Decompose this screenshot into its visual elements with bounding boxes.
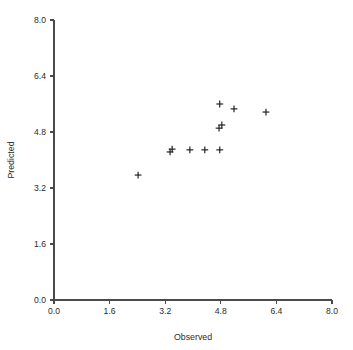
y-tick-label: 6.4	[34, 71, 46, 81]
x-tick-label: 3.2	[159, 306, 171, 316]
x-axis-label: Observed	[174, 332, 212, 342]
x-tick-label: 8.0	[326, 306, 338, 316]
data-point	[231, 106, 238, 113]
data-point-group	[135, 101, 270, 179]
x-tick-label: 4.8	[215, 306, 227, 316]
y-tick-label: 3.2	[34, 183, 46, 193]
data-point	[201, 146, 208, 153]
y-tick-label: 1.6	[34, 239, 46, 249]
x-axis-ticks: 0.01.63.24.86.48.0	[48, 300, 338, 316]
data-point	[216, 146, 223, 153]
data-point	[186, 146, 193, 153]
axes-group	[54, 20, 332, 300]
x-tick-label: 6.4	[270, 306, 282, 316]
plot-canvas: 0.01.63.24.86.48.0 0.01.63.24.86.48.0 Ob…	[0, 0, 353, 350]
x-tick-label: 0.0	[48, 306, 60, 316]
y-tick-label: 4.8	[34, 127, 46, 137]
x-tick-label: 1.6	[104, 306, 116, 316]
y-axis-label: Predicted	[6, 141, 16, 178]
y-axis-ticks: 0.01.63.24.86.48.0	[34, 15, 54, 305]
scatter-plot-figure: 0.01.63.24.86.48.0 0.01.63.24.86.48.0 Ob…	[0, 0, 353, 350]
data-point	[135, 172, 142, 179]
y-tick-label: 8.0	[34, 15, 46, 25]
y-tick-label: 0.0	[34, 295, 46, 305]
data-point	[216, 101, 223, 108]
data-point	[263, 109, 270, 116]
